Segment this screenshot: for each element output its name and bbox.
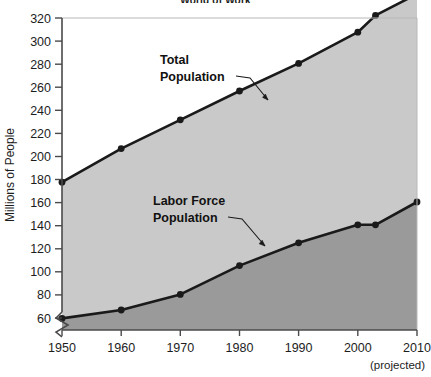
x-tick-label: 2000 (344, 341, 372, 355)
population-labor-force-area-chart: World of Work (0, 0, 431, 377)
x-tick-label: 1980 (226, 341, 254, 355)
labor-force-label-line2: Population (153, 211, 218, 225)
y-tick-label: 180 (30, 173, 51, 187)
y-axis-tick-labels: 320 300 280 260 240 220 200 180 160 140 … (30, 12, 51, 326)
y-tick-label: 140 (30, 219, 51, 233)
data-point (236, 262, 243, 269)
y-axis-title: Millions of People (3, 128, 17, 222)
y-tick-label: 80 (37, 288, 51, 302)
labor-force-label-line1: Labor Force (153, 194, 225, 208)
x-axis-ticks (62, 330, 417, 336)
y-tick-label: 260 (30, 81, 51, 95)
data-point (236, 88, 243, 95)
data-point (177, 116, 184, 123)
x-tick-label: 1960 (107, 341, 135, 355)
data-point (354, 221, 361, 228)
x-tick-label: 1990 (285, 341, 313, 355)
chart-plot-area: 320 300 280 260 240 220 200 180 160 140 … (0, 0, 431, 377)
x-tick-label: 1950 (48, 341, 76, 355)
total-population-label-line1: Total (160, 53, 189, 67)
y-tick-label: 300 (30, 35, 51, 49)
data-point (372, 221, 379, 228)
y-tick-label: 280 (30, 58, 51, 72)
data-point (177, 291, 184, 298)
y-tick-label: 100 (30, 265, 51, 279)
x-tick-label: 1970 (166, 341, 194, 355)
y-tick-label: 160 (30, 196, 51, 210)
y-tick-label: 240 (30, 104, 51, 118)
x-axis-tick-labels: 1950 1960 1970 1980 1990 2000 2010 (48, 341, 431, 355)
y-tick-label: 220 (30, 127, 51, 141)
data-point (354, 29, 361, 36)
data-point (295, 239, 302, 246)
y-tick-label: 120 (30, 242, 51, 256)
x-tick-label: 2010 (403, 341, 431, 355)
data-point (118, 145, 125, 152)
y-axis-ticks (55, 18, 62, 318)
y-tick-label: 60 (37, 312, 51, 326)
y-tick-label: 320 (30, 12, 51, 26)
data-point (118, 307, 125, 314)
total-population-label-line2: Population (160, 70, 225, 84)
y-tick-label: 200 (30, 150, 51, 164)
projected-note: (projected) (370, 359, 425, 371)
data-point (295, 60, 302, 67)
